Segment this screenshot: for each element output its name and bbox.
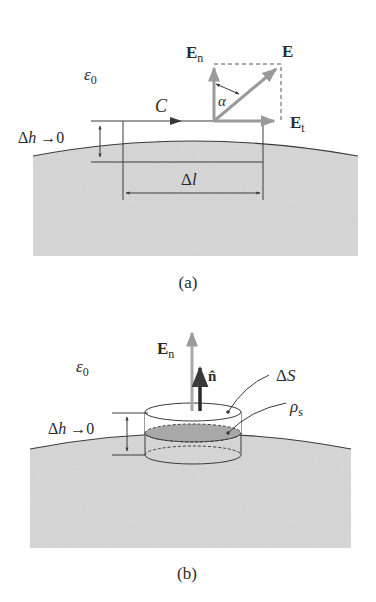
epsilon-label-b: ε0 xyxy=(76,357,89,379)
figure-b: ε0 En n̂ Δh →0 xyxy=(30,333,351,583)
length-label-a: Δl xyxy=(181,170,197,189)
caption-b: (b) xyxy=(177,564,197,583)
path-label-c: C xyxy=(155,96,168,116)
et-label: Et xyxy=(290,113,305,135)
region-texture-a xyxy=(33,141,358,256)
boundary-conditions-figure: ε0 C Δh →0 Δl α En E Et (a) xyxy=(0,0,376,602)
epsilon-label-a: ε0 xyxy=(84,65,97,87)
surface-leader-line xyxy=(228,375,269,412)
path-direction-arrow xyxy=(170,117,182,125)
surface-label: ΔS xyxy=(276,366,296,385)
e-label: E xyxy=(282,42,293,61)
en-label-a: En xyxy=(186,43,203,65)
angle-label-alpha: α xyxy=(218,93,227,109)
caption-a: (a) xyxy=(179,273,198,292)
en-label-b: En xyxy=(157,339,174,361)
height-label-a: Δh →0 xyxy=(18,129,64,146)
figure-a: ε0 C Δh →0 Δl α En E Et (a) xyxy=(18,42,358,292)
charge-label: ρs xyxy=(289,397,303,419)
region-texture-b xyxy=(30,434,351,549)
normal-unit-label: n̂ xyxy=(208,368,217,384)
height-label-b: Δh →0 xyxy=(48,420,94,437)
